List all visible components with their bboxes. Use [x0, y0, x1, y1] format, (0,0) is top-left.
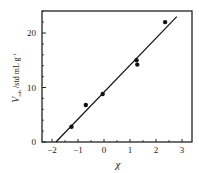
- chart: −2−1012301020 χ Vads /std mL g-1: [0, 0, 199, 173]
- plot-frame: [42, 11, 192, 142]
- y-tick-label: 0: [32, 137, 37, 147]
- x-tick-label: 2: [154, 145, 159, 155]
- x-tick-label: 0: [102, 145, 107, 155]
- y-tick-label: 20: [27, 28, 37, 38]
- y-tick-label: 10: [27, 83, 37, 93]
- fit-line: [56, 17, 177, 142]
- data-point: [84, 103, 88, 107]
- x-axis-label: χ: [115, 158, 122, 170]
- data-point: [135, 62, 139, 66]
- data-point: [69, 125, 73, 129]
- x-tick-label: −1: [73, 145, 83, 155]
- plot-area: −2−1012301020: [27, 11, 192, 155]
- data-point: [101, 92, 105, 96]
- data-point: [163, 20, 167, 24]
- x-tick-label: 1: [128, 145, 133, 155]
- x-tick-label: −2: [47, 145, 57, 155]
- data-point: [134, 58, 138, 62]
- y-axis-label: Vads /std mL g-1: [10, 53, 22, 103]
- x-tick-label: 3: [180, 145, 185, 155]
